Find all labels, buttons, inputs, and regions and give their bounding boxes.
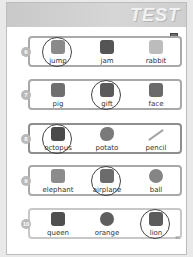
potato-icon bbox=[100, 127, 114, 141]
word-label: face bbox=[136, 100, 176, 108]
word-option[interactable]: rabbit bbox=[136, 39, 176, 66]
word-label: pig bbox=[38, 100, 78, 108]
word-option[interactable]: face bbox=[136, 82, 176, 109]
question-row: 7piggiftface bbox=[28, 79, 182, 110]
word-label: lion bbox=[136, 229, 176, 237]
word-option[interactable]: octopus bbox=[38, 126, 78, 153]
word-label: jump bbox=[38, 57, 78, 65]
word-label: jam bbox=[87, 57, 127, 65]
question-number-badge: 8 bbox=[21, 134, 31, 144]
rabbit-icon bbox=[149, 40, 163, 54]
question-number-badge: 7 bbox=[21, 90, 31, 100]
word-label: orange bbox=[87, 229, 127, 237]
word-option[interactable]: lion bbox=[136, 211, 176, 238]
queen-icon bbox=[51, 212, 65, 226]
header-banner: TEST bbox=[7, 3, 186, 27]
question-number-badge: 6 bbox=[21, 47, 31, 57]
word-label: gift bbox=[87, 100, 127, 108]
question-row: 8octopuspotatopencil bbox=[28, 123, 182, 154]
word-option[interactable]: jam bbox=[87, 39, 127, 66]
jam-jar-icon bbox=[100, 40, 114, 54]
word-label: elephant bbox=[38, 186, 78, 194]
word-option[interactable]: jump bbox=[38, 39, 78, 66]
word-option[interactable]: orange bbox=[87, 211, 127, 238]
worksheet-page: TEST 6jumpjamrabbit7piggiftface8octopusp… bbox=[6, 2, 187, 255]
word-label: airplane bbox=[87, 186, 127, 194]
word-label: potato bbox=[87, 144, 127, 152]
question-row: 9elephantairplaneball bbox=[28, 165, 182, 196]
word-label: octopus bbox=[38, 144, 78, 152]
question-number-badge: 10 bbox=[21, 219, 31, 229]
ball-icon bbox=[149, 169, 163, 183]
pig-icon bbox=[51, 83, 65, 97]
word-label: queen bbox=[38, 229, 78, 237]
word-label: ball bbox=[136, 186, 176, 194]
word-label: pencil bbox=[136, 144, 176, 152]
question-row: 10queenorangelion bbox=[28, 208, 182, 239]
question-row: 6jumpjamrabbit bbox=[28, 36, 182, 67]
word-label: rabbit bbox=[136, 57, 176, 65]
word-option[interactable]: pencil bbox=[136, 126, 176, 153]
pencil-icon bbox=[148, 129, 164, 141]
orange-icon bbox=[100, 212, 114, 226]
word-option[interactable]: elephant bbox=[38, 168, 78, 195]
question-number-badge: 9 bbox=[21, 176, 31, 186]
word-option[interactable]: queen bbox=[38, 211, 78, 238]
elephant-icon bbox=[51, 169, 65, 183]
page-number: 85 bbox=[176, 235, 180, 240]
word-option[interactable]: pig bbox=[38, 82, 78, 109]
word-option[interactable]: ball bbox=[136, 168, 176, 195]
word-option[interactable]: potato bbox=[87, 126, 127, 153]
banner-title: TEST bbox=[130, 5, 180, 26]
face-icon bbox=[149, 83, 163, 97]
word-option[interactable]: gift bbox=[87, 82, 127, 109]
word-option[interactable]: airplane bbox=[87, 168, 127, 195]
